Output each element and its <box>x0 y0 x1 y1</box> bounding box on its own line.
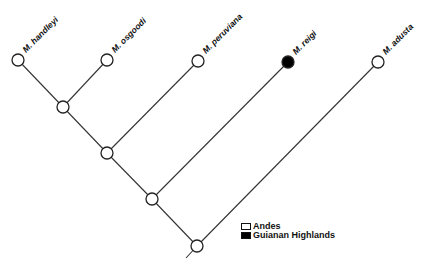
taxon-label: M. peruviana <box>200 11 244 55</box>
branch-peruviana <box>107 61 198 153</box>
branch-reigi <box>152 62 288 199</box>
taxon-label: M. adusta <box>380 21 415 56</box>
node-adusta <box>372 56 384 68</box>
node-n2 <box>101 147 113 159</box>
branch-n2-n3 <box>107 153 152 199</box>
node-n1 <box>57 101 69 113</box>
legend: Andes Guianan Highlands <box>241 222 335 240</box>
node-handleyi <box>12 54 24 66</box>
filled-square-icon <box>241 232 251 239</box>
node-root <box>191 240 203 252</box>
branch-osgoodi <box>63 60 107 107</box>
branch-handleyi <box>18 60 63 107</box>
branch-n3-root <box>152 199 197 246</box>
open-square-icon <box>241 223 251 230</box>
legend-label: Guianan Highlands <box>253 231 335 240</box>
node-reigi <box>282 56 294 68</box>
phylogenetic-tree: M. handleyi M. osgoodi M. peruviana M. r… <box>0 0 428 269</box>
node-osgoodi <box>101 54 113 66</box>
node-n3 <box>146 193 158 205</box>
taxon-label: M. handleyi <box>20 14 60 54</box>
legend-item-guianan: Guianan Highlands <box>241 231 335 240</box>
taxon-label: M. osgoodi <box>109 15 148 54</box>
node-peruviana <box>192 55 204 67</box>
taxon-label: M. reigi <box>290 28 319 57</box>
branch-n1-n2 <box>63 107 107 153</box>
branch-adusta <box>197 62 378 246</box>
